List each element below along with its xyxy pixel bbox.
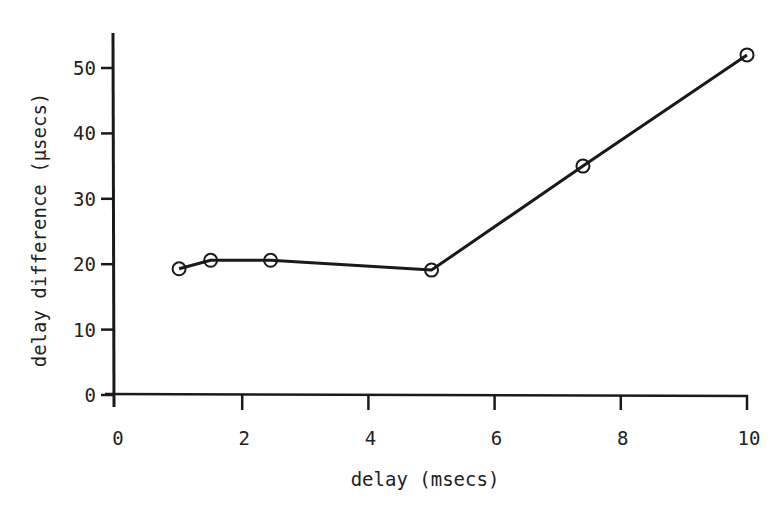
y-tick-label: 50 (73, 57, 96, 79)
y-tick-label: 0 (85, 384, 96, 406)
data-point-marker (425, 264, 438, 277)
x-tick-label: 2 (238, 427, 249, 449)
data-point-marker (741, 48, 754, 61)
axes: 010203040500246810 (73, 33, 760, 449)
x-tick-label: 6 (491, 427, 502, 449)
data-point-marker (204, 254, 217, 267)
x-tick-label: 4 (365, 427, 376, 449)
y-tick-label: 10 (73, 319, 96, 341)
x-axis-title: delay (msecs) (351, 468, 500, 490)
y-axis-title: delay difference (µsecs) (28, 93, 50, 368)
x-tick-label: 8 (617, 427, 628, 449)
x-tick-label: 10 (738, 427, 761, 449)
data-point-marker (264, 254, 277, 267)
y-tick-label: 20 (73, 253, 96, 275)
y-tick-label: 40 (73, 122, 96, 144)
x-tick-label: 0 (112, 427, 123, 449)
y-tick-label: 30 (73, 188, 96, 210)
data-point-marker (173, 262, 186, 275)
data-point-marker (576, 160, 589, 173)
data-series (173, 48, 754, 276)
line-chart: 010203040500246810 delay (msecs) delay d… (0, 0, 784, 515)
x-axis-line (105, 394, 748, 396)
y-axis-line (113, 33, 114, 407)
series-line (179, 55, 747, 270)
